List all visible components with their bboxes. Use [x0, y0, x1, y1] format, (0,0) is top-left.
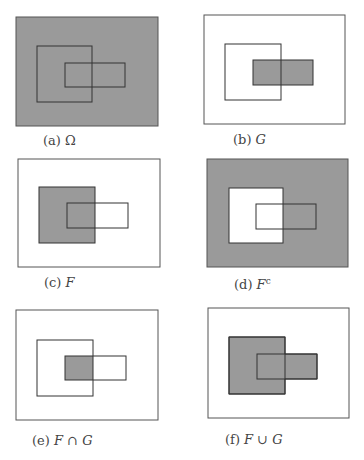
- caption-e-label: (e): [32, 433, 50, 448]
- panel-e-intersection: [16, 310, 158, 420]
- caption-d-set: F: [257, 277, 266, 292]
- caption-f-set: F ∪ G: [244, 432, 283, 447]
- caption-b-set: G: [256, 132, 266, 147]
- caption-c-label: (c): [44, 275, 61, 290]
- panel-b-g: [204, 15, 345, 124]
- caption-d: (d) Fc: [234, 276, 271, 292]
- g-rect: [253, 60, 313, 85]
- panel-f-union: [208, 308, 349, 418]
- caption-b: (b) G: [233, 132, 266, 147]
- caption-c-set: F: [66, 275, 75, 290]
- caption-d-label: (d): [234, 277, 252, 292]
- caption-c: (c) F: [44, 275, 75, 290]
- panel-c-f: [18, 159, 160, 267]
- caption-b-label: (b): [233, 132, 251, 147]
- caption-f: (f) F ∪ G: [225, 432, 283, 447]
- caption-d-complement-sup: c: [266, 276, 271, 286]
- intersection-region: [65, 356, 93, 380]
- panel-d-f-complement: [207, 159, 348, 267]
- panel-a-omega: [16, 17, 158, 126]
- venn-figure: [0, 0, 364, 460]
- caption-a-set: Ω: [65, 133, 76, 148]
- caption-e: (e) F ∩ G: [32, 433, 93, 448]
- caption-a: (a) Ω: [43, 133, 76, 148]
- caption-a-label: (a): [43, 133, 61, 148]
- caption-f-label: (f): [225, 432, 240, 447]
- caption-e-set: F ∩ G: [54, 433, 93, 448]
- union-region-g: [257, 354, 317, 379]
